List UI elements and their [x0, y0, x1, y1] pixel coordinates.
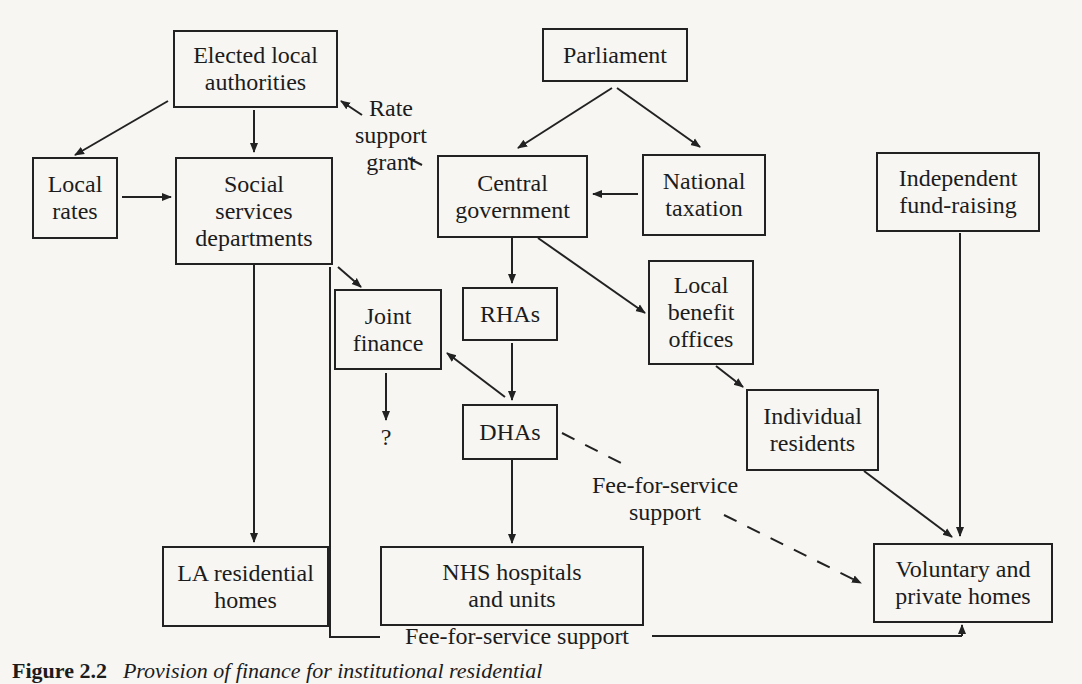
figure-title: Provision of finance for institutional r… [123, 658, 542, 683]
figure-caption: Figure 2.2Provision of finance for insti… [12, 658, 542, 684]
figure-number: Figure 2.2 [12, 658, 107, 683]
node-nhs-hospitals-and-units: NHS hospitals and units [380, 546, 644, 626]
node-central-government: Central government [437, 155, 588, 238]
node-local-benefit-offices: Local benefit offices [648, 260, 754, 365]
node-parliament: Parliament [542, 28, 688, 82]
label-fee-for-service-bottom: Fee-for-service support [383, 623, 651, 650]
node-social-services-departments: Social services departments [175, 157, 333, 265]
node-rhas: RHAs [462, 287, 558, 341]
label-fee-for-service-dashed: Fee-for-service support [580, 472, 750, 526]
node-dhas: DHAs [462, 404, 558, 460]
node-la-residential-homes: LA residential homes [162, 546, 329, 627]
node-individual-residents: Individual residents [746, 389, 879, 471]
node-elected-local-authorities: Elected local authorities [173, 30, 338, 108]
label-unknown-outcome: ? [376, 424, 396, 451]
label-rate-support-grant: Rate support grant [346, 95, 436, 176]
node-joint-finance: Joint finance [334, 289, 442, 370]
node-independent-fund-raising: Independent fund-raising [876, 152, 1040, 232]
node-local-rates: Local rates [32, 157, 118, 239]
node-national-taxation: National taxation [642, 154, 766, 236]
node-voluntary-and-private-homes: Voluntary and private homes [873, 543, 1053, 623]
